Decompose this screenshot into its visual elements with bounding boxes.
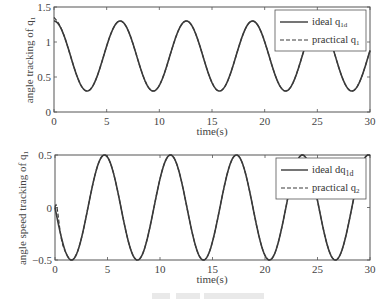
x-tick-label: 20 [259,115,271,127]
x-tick-label: 5 [104,115,110,127]
x-tick-label: 30 [365,115,377,127]
y-tick-label: 1 [46,36,52,48]
x-tick-label: 0 [51,115,57,127]
x-tick-label: 10 [154,115,166,127]
y-tick-label: 0.5 [37,71,51,83]
top-y-axis-label: angle tracking of q1 [23,16,37,103]
x-tick-label: 0 [52,263,58,275]
top-legend: ideal q1d practical q1 [275,10,366,51]
bottom-plot: 051015202530 −0.500.5 time(s) angle spee… [16,149,376,286]
bottom-x-axis-label: time(s) [196,273,227,286]
x-tick-label: 30 [365,263,377,275]
bottom-y-axis-label: angle speed tracking of q1 [16,150,30,265]
x-tick-label: 20 [260,263,272,275]
x-tick-label: 25 [312,115,324,127]
y-tick-label: 1.5 [37,1,51,13]
y-tick-label: −0.5 [32,254,52,266]
top-x-axis-label: time(s) [196,125,227,138]
y-tick-label: 0 [46,106,52,118]
figure: 051015202530 00.511.5 time(s) angle trac… [0,0,392,303]
y-tick-label: 0.5 [38,149,52,161]
x-tick-label: 10 [155,263,167,275]
y-tick-label: 0 [47,202,53,214]
top-plot: 051015202530 00.511.5 time(s) angle trac… [23,1,376,138]
bottom-legend: ideal dq1d practical q2 [276,158,366,199]
x-tick-label: 5 [105,263,111,275]
figure-caption [152,293,264,299]
x-tick-label: 25 [312,263,324,275]
